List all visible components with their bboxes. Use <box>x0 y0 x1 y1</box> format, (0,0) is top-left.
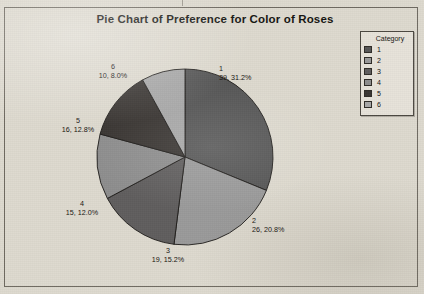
pie-label-1-category: 1 <box>219 64 251 73</box>
legend-swatch-3 <box>364 68 372 75</box>
legend-label-6: 6 <box>377 101 381 108</box>
pie-label-4: 4 15, 12.0% <box>57 199 107 217</box>
pie-label-4-value: 15, 12.0% <box>57 208 107 217</box>
legend-item-2[interactable]: 2 <box>361 55 413 66</box>
legend-label-2: 2 <box>377 57 381 64</box>
pie-label-6: 6 10, 8.0% <box>90 62 136 80</box>
legend-swatch-2 <box>364 57 372 64</box>
legend-label-4: 4 <box>377 79 381 86</box>
pie-label-6-category: 6 <box>90 62 136 71</box>
screenshot-root: Pie Chart of Preference for Color of Ros… <box>0 0 424 294</box>
legend-title: Category <box>367 35 413 42</box>
legend-item-1[interactable]: 1 <box>361 44 413 55</box>
legend-swatch-5 <box>364 90 372 97</box>
legend-item-6[interactable]: 6 <box>361 99 413 110</box>
pie-label-1-value: 39, 31.2% <box>219 73 251 82</box>
pie-label-5-category: 5 <box>53 116 103 125</box>
pie-label-1: 1 39, 31.2% <box>219 64 251 82</box>
pie-slice-group <box>97 69 273 245</box>
pie-label-3-category: 3 <box>142 246 194 255</box>
legend-swatch-4 <box>364 79 372 86</box>
pie-label-5-value: 16, 12.8% <box>53 125 103 134</box>
legend-label-3: 3 <box>377 68 381 75</box>
legend-label-5: 5 <box>377 90 381 97</box>
chart-title: Pie Chart of Preference for Color of Ros… <box>0 13 424 25</box>
chart-legend: Category 123456 <box>360 31 414 116</box>
pie-label-2: 2 26, 20.8% <box>252 216 284 234</box>
legend-swatch-1 <box>364 46 372 53</box>
pie-label-4-category: 4 <box>57 199 107 208</box>
pie-label-3-value: 19, 15.2% <box>142 255 194 264</box>
legend-item-4[interactable]: 4 <box>361 77 413 88</box>
pie-label-6-value: 10, 8.0% <box>90 71 136 80</box>
legend-item-5[interactable]: 5 <box>361 88 413 99</box>
pie-label-2-category: 2 <box>252 216 284 225</box>
legend-swatch-6 <box>364 101 372 108</box>
legend-item-3[interactable]: 3 <box>361 66 413 77</box>
legend-item-list: 123456 <box>361 44 413 110</box>
pie-label-3: 3 19, 15.2% <box>142 246 194 264</box>
legend-label-1: 1 <box>377 46 381 53</box>
pie-label-2-value: 26, 20.8% <box>252 225 284 234</box>
pie-label-5: 5 16, 12.8% <box>53 116 103 134</box>
